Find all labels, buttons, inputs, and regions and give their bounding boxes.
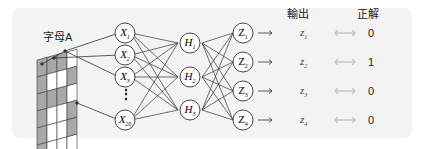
answer-1: 0 [368, 27, 374, 39]
z1-node-label: Z1 [233, 26, 253, 40]
x1-label: X1 [115, 26, 135, 40]
answer-3: 0 [368, 85, 374, 97]
x20-label: X20 [115, 113, 135, 127]
answer-4: 0 [368, 114, 374, 126]
output-connections [202, 33, 233, 120]
output-z4: z4 [300, 113, 307, 127]
h1-label: H1 [180, 36, 200, 50]
output-z2: z2 [300, 55, 307, 69]
output-z1: z1 [300, 26, 307, 40]
answer-header: 正解 [357, 5, 379, 21]
arrow-icons [258, 31, 272, 123]
ellipsis: ⋮ [120, 88, 132, 100]
double-arrow-icons [335, 30, 355, 123]
z3-node-label: Z3 [233, 84, 253, 98]
neural-network-diagram [0, 0, 426, 149]
output-header: 輸出 [287, 5, 309, 21]
input-label: 字母A [43, 28, 72, 44]
output-z3: z3 [300, 84, 307, 98]
answer-2: 1 [368, 56, 374, 68]
x2-label: X2 [115, 48, 135, 62]
h3-label: H3 [180, 103, 200, 117]
z4-node-label: Z4 [233, 113, 253, 127]
hidden-connections [131, 33, 178, 120]
z2-node-label: Z2 [233, 55, 253, 69]
h2-label: H2 [180, 70, 200, 84]
x3-label: X3 [115, 70, 135, 84]
